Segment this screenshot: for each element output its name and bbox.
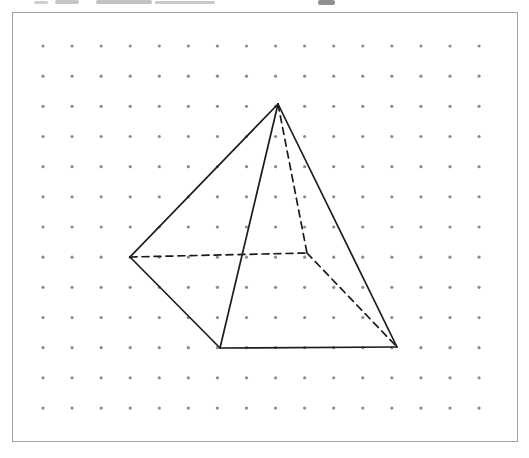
grid-dot	[158, 316, 161, 319]
grid-dot	[70, 105, 73, 108]
grid-dot	[129, 44, 132, 47]
grid-dot	[216, 376, 219, 379]
grid-dot	[216, 256, 219, 259]
grid-dot	[187, 165, 190, 168]
grid-dot	[477, 44, 480, 47]
figure-svg	[0, 0, 529, 458]
grid-dot	[41, 195, 44, 198]
grid-dot	[70, 406, 73, 409]
grid-dot	[303, 286, 306, 289]
grid-dot	[274, 256, 277, 259]
grid-dot	[390, 225, 393, 228]
grid-dot	[129, 135, 132, 138]
pyramid-edge-apex-base_back-dashed	[278, 104, 307, 253]
grid-dot	[332, 376, 335, 379]
grid-dot	[70, 316, 73, 319]
grid-dot	[129, 195, 132, 198]
grid-dot	[70, 195, 73, 198]
grid-dot	[448, 376, 451, 379]
grid-dot	[390, 406, 393, 409]
grid-dot	[303, 225, 306, 228]
grid-dot	[419, 195, 422, 198]
pyramid-edge-base_front_left-base_front_right-solid	[220, 347, 397, 348]
grid-dot	[332, 44, 335, 47]
grid-dot	[361, 225, 364, 228]
grid-dot	[419, 135, 422, 138]
grid-dot	[303, 195, 306, 198]
grid-dot	[41, 44, 44, 47]
grid-dot	[100, 75, 103, 78]
grid-dot	[477, 286, 480, 289]
grid-dot	[41, 376, 44, 379]
grid-dot	[361, 44, 364, 47]
grid-dot	[390, 75, 393, 78]
grid-dot	[245, 316, 248, 319]
grid-dot	[187, 44, 190, 47]
grid-dot	[41, 105, 44, 108]
grid-dot	[100, 376, 103, 379]
grid-dot	[245, 195, 248, 198]
grid-dot	[419, 256, 422, 259]
grid-dot	[70, 346, 73, 349]
grid-dot	[245, 105, 248, 108]
grid-dot	[216, 195, 219, 198]
pyramid-edge-base_left-base_front_left-solid	[130, 257, 220, 348]
grid-dot	[448, 256, 451, 259]
grid-dot	[129, 225, 132, 228]
grid-dot	[361, 135, 364, 138]
grid-dot	[187, 286, 190, 289]
grid-dot	[448, 75, 451, 78]
grid-dot	[477, 406, 480, 409]
grid-dot	[303, 44, 306, 47]
grid-dot	[390, 316, 393, 319]
grid-dot	[245, 225, 248, 228]
grid-dot	[274, 225, 277, 228]
grid-dot	[100, 225, 103, 228]
grid-dot	[303, 165, 306, 168]
pyramid-edge-apex-base_front_right-solid	[278, 104, 397, 347]
grid-dot	[274, 165, 277, 168]
grid-dot	[361, 165, 364, 168]
grid-dot	[158, 406, 161, 409]
grid-dot	[129, 346, 132, 349]
grid-dot	[332, 135, 335, 138]
grid-dot	[129, 376, 132, 379]
grid-dot	[332, 316, 335, 319]
grid-dot	[332, 286, 335, 289]
grid-dot	[187, 75, 190, 78]
grid-dot	[361, 286, 364, 289]
grid-dot	[477, 135, 480, 138]
grid-dot	[245, 165, 248, 168]
grid-dot	[158, 105, 161, 108]
grid-dot	[361, 75, 364, 78]
grid-dot	[129, 286, 132, 289]
grid-dot	[361, 376, 364, 379]
grid-dot	[332, 406, 335, 409]
pyramid-edge-base_back-base_front_right-dashed	[307, 253, 397, 347]
grid-dot	[245, 406, 248, 409]
grid-dot	[41, 256, 44, 259]
grid-dot	[419, 225, 422, 228]
grid-dot	[332, 225, 335, 228]
grid-dot	[129, 406, 132, 409]
grid-dot	[332, 165, 335, 168]
grid-dot	[448, 406, 451, 409]
grid-dot	[245, 75, 248, 78]
grid-dot	[41, 346, 44, 349]
grid-dot	[419, 44, 422, 47]
grid-dot	[41, 286, 44, 289]
grid-dot	[129, 75, 132, 78]
grid-dot	[361, 316, 364, 319]
grid-dot	[477, 195, 480, 198]
grid-dot	[448, 165, 451, 168]
grid-dot	[216, 75, 219, 78]
grid-dot	[419, 165, 422, 168]
grid-dot	[70, 44, 73, 47]
grid-dot	[100, 406, 103, 409]
grid-dot	[274, 286, 277, 289]
grid-dot	[245, 286, 248, 289]
grid-dot	[390, 286, 393, 289]
grid-dot	[274, 195, 277, 198]
grid-dot	[448, 105, 451, 108]
grid-dot	[158, 346, 161, 349]
